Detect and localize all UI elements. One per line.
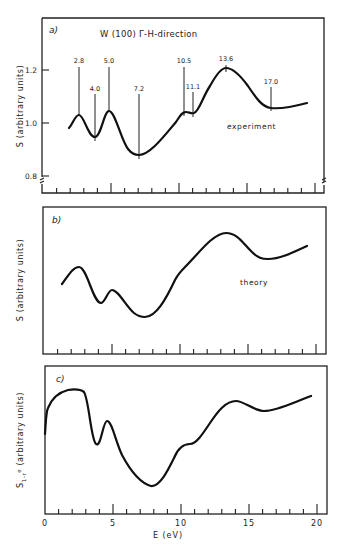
xtick-label-5: 5 bbox=[110, 519, 116, 528]
panel-c-tag: c) bbox=[56, 374, 64, 384]
panel-c-xticks bbox=[59, 504, 317, 514]
xtick-label-15: 15 bbox=[243, 519, 255, 528]
figure-canvas: 1.2 1.0 0.8 a) W (100) Γ-H-direction S (… bbox=[0, 0, 343, 555]
theory-label: theory bbox=[240, 278, 268, 287]
peak-label-10-5: 10.5 bbox=[177, 57, 191, 65]
peak-label-11-1: 11.1 bbox=[186, 83, 200, 91]
panel-b-tag: b) bbox=[52, 215, 61, 225]
ylabel-sub: 1-r bbox=[21, 473, 27, 483]
panel-b-y-label: S (arbitrary units) bbox=[16, 239, 25, 321]
panel-b-frame bbox=[43, 207, 326, 354]
svg-text:S1-re (arbitrary units): S1-re (arbitrary units) bbox=[16, 392, 27, 488]
panel-a-frame bbox=[42, 18, 324, 182]
x-axis-label: E (eV) bbox=[153, 531, 183, 540]
peak-label-17-0: 17.0 bbox=[264, 78, 278, 86]
ylabel-rest: (arbitrary units) bbox=[16, 392, 25, 469]
xtick-label-0: 0 bbox=[42, 519, 48, 528]
peak-label-13-6: 13.6 bbox=[219, 55, 233, 63]
peak-label-5-0: 5.0 bbox=[104, 57, 114, 65]
panel-c-frame bbox=[45, 366, 327, 514]
theory-curve bbox=[62, 233, 307, 317]
panel-a-tag: a) bbox=[49, 25, 58, 35]
panel-c-y-label: S1-re (arbitrary units) bbox=[16, 392, 27, 488]
ytick-label-0-8: 0.8 bbox=[25, 172, 37, 181]
ytick-label-1-2: 1.2 bbox=[25, 66, 37, 75]
peak-label-2-8: 2.8 bbox=[74, 57, 84, 65]
panel-b: b) S (arbitrary units) theory bbox=[16, 207, 326, 354]
xtick-label-10: 10 bbox=[175, 519, 187, 528]
peak-label-4-0: 4.0 bbox=[90, 85, 100, 93]
xtick-label-20: 20 bbox=[311, 519, 323, 528]
ytick-label-1-0: 1.0 bbox=[25, 119, 37, 128]
chart-title: W (100) Γ-H-direction bbox=[100, 29, 197, 39]
panel-a-xticks bbox=[57, 183, 315, 193]
panel-c: 0 5 10 15 20 E (eV) c) S1-re (arbitrary … bbox=[16, 366, 328, 540]
peak-label-7-2: 7.2 bbox=[134, 85, 144, 93]
panel-b-xticks bbox=[58, 344, 316, 354]
axis-break-left-icon bbox=[40, 178, 44, 183]
panel-a-y-label: S (arbitrary units) bbox=[16, 65, 25, 147]
panel-a: 1.2 1.0 0.8 a) W (100) Γ-H-direction S (… bbox=[16, 18, 326, 193]
s1re-curve bbox=[45, 389, 311, 486]
experiment-label: experiment bbox=[227, 122, 276, 131]
